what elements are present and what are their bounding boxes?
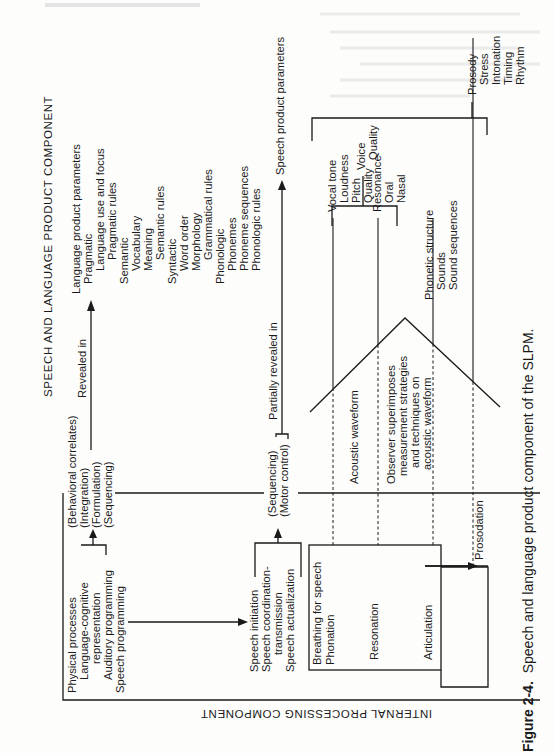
vocal-line: Pitch (350, 178, 362, 203)
param-line: Word order (178, 215, 190, 271)
acoustic-waveform-label: Acoustic waveform (348, 390, 360, 484)
motor-line: (Sequencing) (266, 450, 278, 517)
param-line: Language use and focus (94, 148, 106, 271)
param-line: Grammatical rules (202, 169, 214, 260)
phonetic-line: Sounds (435, 252, 447, 290)
breathing-label: Breathing for speech (311, 562, 323, 665)
vocal-line: Vocal tone (326, 160, 338, 212)
stage-line: Speech actualization (284, 569, 296, 672)
language-params-heading: Language product parameters (70, 144, 82, 294)
param-line: Phoneme sequences (238, 165, 250, 271)
slpm-diagram: SPEECH AND LANGUAGE PRODUCT COMPONENT La… (0, 0, 554, 753)
motor-control: (Sequencing) (Motor control) Partially r… (266, 180, 290, 517)
partially-revealed-in-label: Partially revealed in (267, 322, 279, 420)
speech-programming-arrow (128, 618, 248, 626)
phonetic-line: Phonetic structure (423, 210, 435, 300)
prosody-line: Intonation (490, 36, 502, 85)
revealed-in-arrow: Revealed in (76, 300, 95, 450)
param-line: Pragmatic (82, 233, 94, 284)
observer-note: Observer superimposes measurement strate… (385, 356, 433, 484)
caption-label: Figure 2-4. (520, 681, 536, 752)
phonation-label: Phonation (324, 615, 336, 665)
internal-processing-title-flipped: INTERNAL PROCESSING COMPONENT (200, 708, 432, 720)
vocal-line: Nasal (395, 174, 407, 203)
svg-text:Figure 2-4. Speech and l: Figure 2-4. Speech and language product … (520, 329, 536, 753)
param-line: Phonologic (214, 228, 226, 284)
speech-params-heading: Speech product parameters (274, 37, 286, 175)
voice-label: Voice (355, 143, 367, 170)
param-line: Phonemes (226, 217, 238, 271)
vocal-line: Oral (383, 182, 395, 203)
behavioral-line: (Integration) (78, 467, 90, 528)
param-line: Phonologic rules (250, 188, 262, 271)
process-line: Speech programming (114, 586, 126, 693)
quality-label: Quality (367, 125, 379, 160)
prosody-line: Stress (478, 53, 490, 85)
process-line: Physical processes (66, 597, 78, 693)
physiology-box: Breathing for speech Phonation Resonatio… (309, 500, 488, 687)
internal-processing-box: Physical processes Language-cognitive re… (63, 493, 540, 700)
prosody: Prosody Stress Intonation Timing Rhythm (466, 36, 526, 95)
prosody-line: Timing (502, 52, 514, 85)
behavioral-arrow (81, 529, 106, 555)
observer-line: acoustic waveform (421, 377, 433, 470)
observer-line: and techniques on (409, 377, 421, 468)
stage-line: transmission (272, 592, 284, 655)
stage-line: Speech coordination- (260, 566, 272, 672)
arrowhead-icon (278, 180, 286, 190)
figure-caption: Figure 2-4. Speech and language product … (520, 329, 536, 753)
vocal-line: Resonance (371, 155, 383, 212)
process-line: representation (90, 592, 102, 664)
articulation-label: Articulation (422, 605, 434, 660)
param-line: Pragmatic rules (106, 182, 118, 260)
param-line: Semantic (118, 237, 130, 284)
phonetic-structure: Phonetic structure Sounds Sound sequence… (423, 200, 459, 300)
behavioral-line: (Formulation) (90, 461, 102, 528)
speech-params-bracket (312, 102, 487, 141)
param-line: Syntactic (166, 238, 178, 284)
vocal-line: Loudness (338, 154, 350, 203)
process-line: Auditory programming (102, 570, 114, 680)
prosody-line: Prosody (466, 54, 478, 95)
behavioral-line: (Behavioral correlates) (66, 415, 78, 528)
observer-line: measurement strategies (397, 356, 409, 476)
arrowhead-icon (274, 528, 282, 538)
document-page: SPEECH AND LANGUAGE PRODUCT COMPONENT La… (0, 0, 554, 753)
observer-line: Observer superimposes (385, 365, 397, 484)
prosodation-label: Prosodation (473, 500, 485, 560)
speech-stages: Speech initiation Speech coordination- t… (248, 528, 301, 672)
resonation-label: Resonation (368, 603, 380, 660)
phonetic-line: Sound sequences (447, 200, 459, 290)
motor-line: (Motor control) (278, 444, 290, 517)
param-line: Morphology (190, 212, 202, 271)
process-line: Language-cognitive (78, 582, 90, 680)
behavioral-line: (Sequencing) (102, 461, 114, 528)
arrowhead-icon (87, 300, 95, 311)
diagram-title: SPEECH AND LANGUAGE PRODUCT COMPONENT (42, 96, 54, 397)
prosody-line: Rhythm (514, 46, 526, 85)
param-line: Vocabulary (130, 215, 142, 271)
language-params: Language product parameters Pragmatic La… (70, 144, 262, 294)
arrowhead-icon (238, 618, 248, 626)
revealed-in-label: Revealed in (76, 339, 88, 398)
param-line: Meaning (142, 228, 154, 271)
param-line: Semantic rules (154, 186, 166, 260)
caption-text: Speech and language product component of… (520, 329, 536, 674)
stage-line: Speech initiation (248, 590, 260, 672)
arrowhead-icon (89, 529, 97, 538)
behavioral-correlates: (Behavioral correlates) (Integration) (F… (66, 415, 114, 528)
